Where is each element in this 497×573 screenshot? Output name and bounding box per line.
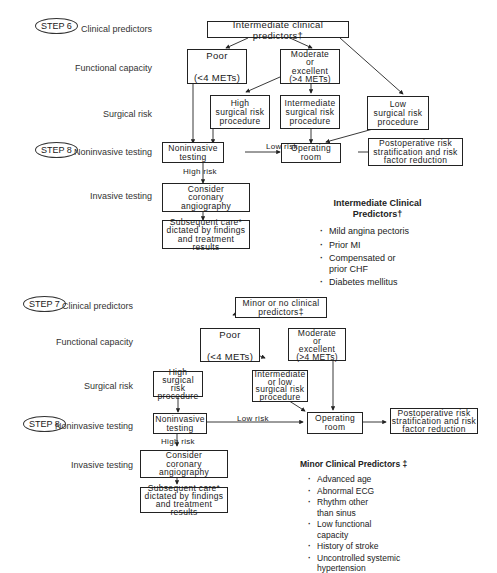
high-surgical-risk-box: High surgical risk procedure — [153, 371, 203, 397]
legend-item: Prior MI — [320, 240, 460, 251]
intermediate-surgical-risk-box: Intermediate surgical risk procedure — [280, 95, 340, 129]
high-surgical-risk-box: High surgical risk procedure — [210, 95, 270, 129]
step-6-badge: STEP 6 — [35, 18, 78, 34]
legend-item: Abnormal ECG — [308, 486, 450, 497]
legend-item: Uncontrolled systemic hypertension — [308, 553, 450, 573]
consider-angiography-box: Consider coronary angiography — [162, 183, 250, 212]
legend-item: History of stroke — [308, 541, 450, 552]
subsequent-care-box: Subsequent care* dictated by findings an… — [162, 220, 250, 249]
row-label-noninvasive-testing: Noninvasive testing — [55, 421, 133, 431]
low-risk-edge-label: Low risk — [237, 414, 269, 423]
poor-functional-capacity-box: Poor (<4 METs) — [187, 49, 247, 84]
low-surgical-risk-box: Low surgical risk procedure — [367, 96, 429, 130]
row-label-invasive-testing: Invasive testing — [71, 460, 133, 470]
row-label-surgical-risk: Surgical risk — [103, 109, 152, 119]
step-7-badge: STEP 7 — [23, 296, 66, 312]
legend-item: Diabetes mellitus — [320, 277, 460, 288]
row-label-invasive-testing: Invasive testing — [90, 191, 152, 201]
legend-item: Compensated or prior CHF — [320, 253, 460, 274]
step-8-badge: STEP 8 — [35, 142, 78, 158]
row-label-noninvasive-testing: Noninvasive testing — [74, 147, 152, 157]
subsequent-care-box: Subsequent care* dictated by findings an… — [140, 487, 228, 513]
intermediate-predictors-legend: Intermediate Clinical Predictors† Mild a… — [320, 198, 460, 291]
noninvasive-testing-box: Noninvasive testing — [162, 142, 224, 163]
moderate-excellent-capacity-box: Moderate or excellent (>4 METs) — [288, 328, 346, 361]
row-label-functional-capacity: Functional capacity — [56, 337, 133, 347]
minor-clinical-predictors-box: Minor or no clinical predictors‡ — [235, 297, 327, 318]
minor-predictors-legend: Minor Clinical Predictors ‡ Advanced age… — [300, 459, 450, 573]
moderate-excellent-capacity-box: Moderate or excellent (>4 METs) — [280, 49, 340, 84]
noninvasive-testing-box: Noninvasive testing — [153, 413, 207, 434]
legend-item: Rhythm other than sinus — [308, 497, 450, 518]
legend-item: Advanced age — [308, 474, 450, 485]
poor-functional-capacity-box: Poor (<4 METs) — [200, 328, 260, 362]
high-risk-edge-label: High risk — [183, 167, 217, 176]
legend-title: Minor Clinical Predictors ‡ — [300, 459, 450, 470]
intermediate-low-surgical-risk-box: Intermediate or low surgical risk proced… — [252, 370, 308, 402]
row-label-surgical-risk: Surgical risk — [84, 381, 133, 391]
postoperative-risk-box: Postoperative risk stratification and ri… — [390, 408, 478, 434]
intermediate-clinical-predictors-box: Intermediate clinical predictors† — [207, 21, 349, 38]
row-label-functional-capacity: Functional capacity — [75, 63, 152, 73]
operating-room-box: Operating room — [307, 412, 363, 434]
row-label-clinical-predictors: Clinical predictors — [81, 24, 152, 34]
low-risk-edge-label: Low risk — [266, 142, 298, 151]
row-label-clinical-predictors: Clinical predictors — [62, 301, 133, 311]
legend-item: Low functional capacity — [308, 519, 450, 540]
legend-item: Mild angina pectoris — [320, 226, 460, 237]
high-risk-edge-label: High risk — [161, 437, 195, 446]
consider-angiography-box: Consider coronary angiography — [140, 450, 228, 478]
legend-title: Intermediate Clinical Predictors† — [320, 198, 435, 220]
postoperative-risk-box: Postoperative risk stratification and ri… — [368, 138, 463, 166]
